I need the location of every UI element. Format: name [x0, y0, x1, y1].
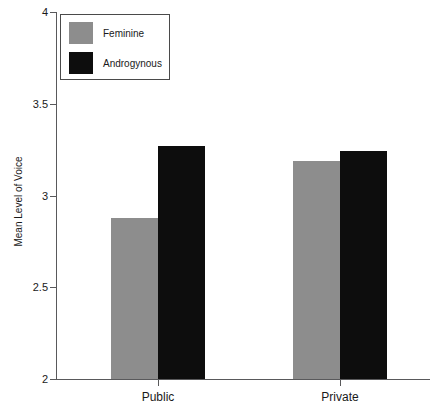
- chart-legend: Feminine Androgynous: [60, 14, 170, 80]
- y-tick-label-wrap: 3: [0, 196, 48, 207]
- y-tick-label: 2: [2, 374, 48, 385]
- y-tick-mark: [50, 196, 57, 197]
- bar-feminine-private: [293, 161, 340, 379]
- legend-label-feminine: Feminine: [103, 28, 144, 39]
- legend-entry-androgynous: Androgynous: [69, 51, 162, 75]
- y-tick-mark: [50, 379, 57, 380]
- y-tick-label: 3.5: [2, 99, 48, 110]
- y-tick-label: 3: [2, 191, 48, 202]
- bar-chart: Mean Level of Voice 22.533.54 PublicPriv…: [0, 0, 444, 407]
- y-tick-label-wrap: 3.5: [0, 104, 48, 115]
- y-tick-mark: [50, 104, 57, 105]
- x-tick-mark: [158, 379, 159, 386]
- legend-entry-feminine: Feminine: [69, 21, 144, 45]
- legend-label-androgynous: Androgynous: [103, 58, 162, 69]
- y-tick-label-wrap: 4: [0, 12, 48, 23]
- y-tick-label-wrap: 2.5: [0, 287, 48, 298]
- legend-swatch-androgynous: [69, 52, 93, 74]
- x-axis-line: [56, 379, 430, 380]
- y-tick-mark: [50, 287, 57, 288]
- y-tick-mark: [50, 12, 57, 13]
- x-tick-label-private: Private: [280, 390, 400, 404]
- bar-androgynous-public: [158, 146, 205, 379]
- bar-androgynous-private: [340, 151, 387, 379]
- legend-swatch-feminine: [69, 22, 93, 44]
- y-tick-label: 2.5: [2, 282, 48, 293]
- x-tick-label-public: Public: [98, 390, 218, 404]
- x-tick-mark: [340, 379, 341, 386]
- y-tick-label-wrap: 2: [0, 379, 48, 390]
- bar-feminine-public: [111, 218, 158, 379]
- y-tick-label: 4: [2, 7, 48, 18]
